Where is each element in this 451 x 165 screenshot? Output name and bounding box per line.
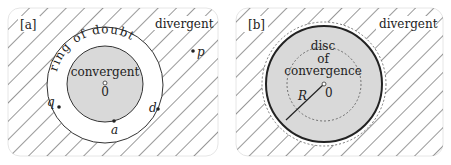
point-d-label: d xyxy=(149,101,157,115)
panel-b: [b] divergent disc of convergence 0 R xyxy=(236,8,443,156)
origin-label-a: 0 xyxy=(101,85,109,99)
disc-label-line3: convergence xyxy=(284,64,362,78)
radius-label: R xyxy=(297,89,307,103)
point-p-label: p xyxy=(197,45,205,59)
panel-a: [a] divergent ring of doubt convergent 0… xyxy=(8,8,218,156)
point-q xyxy=(57,105,61,109)
origin-label-b: 0 xyxy=(325,86,333,100)
point-p xyxy=(191,49,195,53)
point-a-label: a xyxy=(111,123,118,137)
convergence-diagram: [a] divergent ring of doubt convergent 0… xyxy=(0,0,451,165)
divergent-label-a: divergent xyxy=(155,17,214,31)
point-d xyxy=(156,107,160,111)
disc-label-line1: disc xyxy=(311,39,336,53)
panel-tag-b: [b] xyxy=(248,18,265,32)
convergent-label: convergent xyxy=(71,65,140,79)
point-q-label: q xyxy=(47,95,55,109)
panel-tag-a: [a] xyxy=(20,18,37,32)
divergent-label-b: divergent xyxy=(379,17,438,31)
